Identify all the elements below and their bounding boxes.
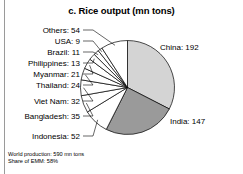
pie-label-bangladesh: Bangladesh: 35	[24, 112, 80, 121]
footnote-world-production: World production: 590 mn tons	[8, 151, 84, 158]
chart-footnote: World production: 590 mn tons Share of E…	[8, 151, 84, 166]
pie-label-others: Others: 54	[43, 26, 80, 35]
leader-line-others	[83, 30, 115, 45]
pie-slices	[80, 41, 174, 135]
pie-label-india: India: 147	[170, 117, 205, 126]
pie-label-myanmar: Myanmar: 21	[33, 70, 80, 79]
footnote-share-emm: Share of EMM: 58%	[8, 158, 84, 165]
pie-label-indonesia: Indonesia: 52	[32, 132, 80, 141]
pie-label-brazil: Brazil: 11	[47, 48, 80, 57]
pie-label-thailand: Thailand: 24	[36, 81, 80, 90]
pie-label-china: China: 192	[160, 43, 199, 52]
pie-label-philippines: Philippines: 13	[28, 59, 80, 68]
pie-label-usa: USA: 9	[55, 37, 80, 46]
pie-label-viet-nam: Viet Nam: 32	[34, 97, 80, 106]
chart-figure: c. Rice output (mn tons) Others: 54USA: …	[0, 0, 243, 174]
